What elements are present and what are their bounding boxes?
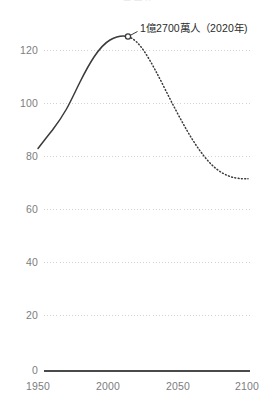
- y-tick-label-80: 80: [8, 151, 38, 162]
- y-tick-label-100: 100: [8, 98, 38, 109]
- peak-annotation-label: 1億2700萬人（2020年): [140, 22, 248, 35]
- chart-plot-area: [0, 0, 276, 412]
- y-tick-label-0: 0: [8, 365, 38, 376]
- y-tick-label-60: 60: [8, 204, 38, 215]
- x-tick-label-2000: 2000: [86, 380, 130, 392]
- x-tick-label-2050: 2050: [156, 380, 200, 392]
- y-tick-label-20: 20: [8, 310, 38, 321]
- population-line-chart: 百萬人 120 100 80 60 40 20 0 1950 2000 2050…: [0, 0, 276, 412]
- peak-marker-2020: [125, 34, 130, 39]
- series-line-actual: [38, 36, 128, 148]
- x-tick-label-2100: 2100: [225, 380, 269, 392]
- series-line-projection: [128, 37, 248, 179]
- y-tick-label-40: 40: [8, 257, 38, 268]
- annotation-leader-line: [131, 32, 138, 36]
- y-tick-label-120: 120: [8, 45, 38, 56]
- x-tick-label-1950: 1950: [16, 380, 60, 392]
